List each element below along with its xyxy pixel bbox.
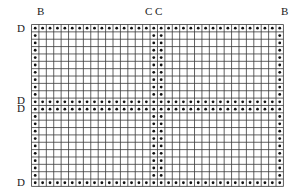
stitch-dot — [108, 181, 111, 184]
stitch-dot — [34, 56, 37, 59]
stitch-dot — [182, 27, 185, 30]
stitch-dot — [167, 181, 170, 184]
stitch-dot — [175, 108, 178, 111]
stitch-dot — [160, 34, 163, 37]
stitch-dot — [152, 100, 155, 103]
stitch-dot — [256, 108, 259, 111]
stitch-dot — [249, 27, 252, 30]
stitch-dot — [189, 100, 192, 103]
stitch-dot — [123, 100, 126, 103]
stitch-dot — [49, 27, 52, 30]
stitch-dot — [160, 122, 163, 125]
stitch-dot — [100, 108, 103, 111]
stitch-dot — [34, 42, 37, 45]
stitch-dot — [152, 152, 155, 155]
stitch-dot — [271, 181, 274, 184]
stitch-dot — [115, 27, 118, 30]
label-b-left: B — [37, 6, 44, 17]
stitch-dot — [278, 86, 281, 89]
stitch-dot — [115, 181, 118, 184]
stitch-dot — [160, 49, 163, 52]
stitch-dot — [249, 108, 252, 111]
stitch-dot — [175, 100, 178, 103]
stitch-dot — [278, 122, 281, 125]
stitch-dot — [271, 108, 274, 111]
stitch-dot — [152, 167, 155, 170]
stitch-dot — [34, 78, 37, 81]
stitch-dot — [212, 27, 215, 30]
stitch-dot — [34, 122, 37, 125]
stitch-dot — [34, 100, 37, 103]
stitch-dot — [93, 108, 96, 111]
stitch-dot — [241, 108, 244, 111]
stitch-dot — [152, 71, 155, 74]
stitch-dot — [71, 108, 74, 111]
stitch-dot — [278, 181, 281, 184]
stitch-dot — [160, 27, 163, 30]
stitch-dot — [182, 108, 185, 111]
label-d-mid-lower: D — [17, 103, 25, 114]
stitch-dot — [86, 108, 89, 111]
stitch-dot — [34, 86, 37, 89]
stitch-dot — [182, 181, 185, 184]
stitch-dot — [189, 108, 192, 111]
stitch-dot — [278, 64, 281, 67]
stitch-dot — [152, 86, 155, 89]
stitch-dot — [152, 42, 155, 45]
stitch-dot — [197, 100, 200, 103]
stitch-dot — [56, 108, 59, 111]
stitch-dot — [145, 108, 148, 111]
stitch-dot — [34, 115, 37, 118]
stitch-dot — [78, 108, 81, 111]
stitch-dot — [56, 181, 59, 184]
stitch-dot — [34, 181, 37, 184]
stitch-dot — [212, 108, 215, 111]
stitch-dot — [175, 181, 178, 184]
stitch-dot — [49, 108, 52, 111]
stitch-dot — [41, 27, 44, 30]
stitch-dot — [41, 100, 44, 103]
stitch-dot — [34, 152, 37, 155]
stitch-dot — [160, 174, 163, 177]
stitch-dot — [278, 145, 281, 148]
stitch-dot — [160, 71, 163, 74]
stitch-dot — [264, 27, 267, 30]
stitch-dot — [256, 181, 259, 184]
stitch-dot — [160, 137, 163, 140]
stitch-dot — [278, 100, 281, 103]
stitch-dot — [160, 78, 163, 81]
stitch-dot — [63, 108, 66, 111]
stitch-dot — [249, 181, 252, 184]
stitch-dot — [145, 27, 148, 30]
stitch-dot — [226, 181, 229, 184]
stitch-dot — [93, 100, 96, 103]
label-c-left: C — [145, 6, 152, 17]
stitch-dot — [204, 27, 207, 30]
stitch-dot — [264, 100, 267, 103]
stitch-dot — [226, 108, 229, 111]
stitch-dot — [182, 100, 185, 103]
stitch-dot — [34, 108, 37, 111]
stitch-dot — [138, 100, 141, 103]
stitch-dot — [130, 27, 133, 30]
stitch-dot — [115, 100, 118, 103]
stitch-dot — [241, 181, 244, 184]
stitch-dot — [167, 108, 170, 111]
stitch-dot — [86, 100, 89, 103]
stitch-dot — [152, 174, 155, 177]
label-c-right: C — [155, 6, 162, 17]
stitch-dot — [271, 27, 274, 30]
stitch-dot — [197, 27, 200, 30]
stitch-dot — [219, 108, 222, 111]
stitch-dot — [152, 56, 155, 59]
stitch-dot — [278, 78, 281, 81]
stitch-dot — [138, 108, 141, 111]
stitch-dot — [160, 108, 163, 111]
stitch-dot — [152, 181, 155, 184]
stitch-dot — [204, 100, 207, 103]
stitch-dot — [86, 181, 89, 184]
stitch-dot — [152, 122, 155, 125]
stitch-dot — [56, 100, 59, 103]
stitch-dot — [63, 27, 66, 30]
stitch-dot — [264, 181, 267, 184]
